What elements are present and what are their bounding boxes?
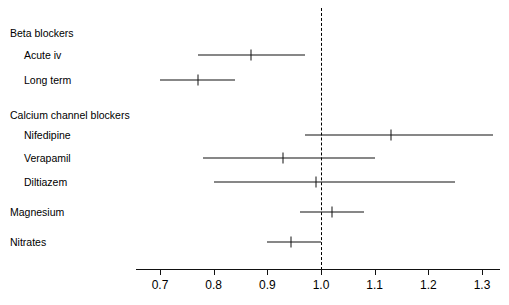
x-axis-tick bbox=[428, 269, 429, 275]
x-axis-tick bbox=[267, 269, 268, 275]
reference-line-no-effect bbox=[321, 8, 322, 270]
row-label: Nifedipine bbox=[24, 130, 71, 141]
x-axis-tick-label: 1.3 bbox=[474, 278, 491, 292]
x-axis-tick bbox=[482, 269, 483, 275]
point-estimate-marker bbox=[283, 153, 284, 164]
point-estimate-marker bbox=[390, 130, 391, 141]
x-axis-tick bbox=[375, 269, 376, 275]
row-label: Diltiazem bbox=[24, 177, 67, 188]
x-axis-tick bbox=[214, 269, 215, 275]
forest-plot-figure: Beta blockersAcute ivLong termCalcium ch… bbox=[0, 0, 509, 305]
x-axis-tick bbox=[160, 269, 161, 275]
x-axis-tick-label: 1.2 bbox=[420, 278, 437, 292]
row-label: Verapamil bbox=[24, 153, 71, 164]
group-header-label: Beta blockers bbox=[10, 28, 74, 39]
x-axis-tick-label: 1.1 bbox=[366, 278, 383, 292]
confidence-interval-line bbox=[214, 182, 456, 183]
point-estimate-marker bbox=[315, 177, 316, 188]
x-axis-line bbox=[136, 269, 500, 270]
x-axis-tick-label: 1.0 bbox=[313, 278, 330, 292]
row-label: Nitrates bbox=[10, 237, 46, 248]
point-estimate-marker bbox=[197, 75, 198, 86]
point-estimate-marker bbox=[331, 207, 332, 218]
x-axis-tick-label: 0.9 bbox=[259, 278, 276, 292]
point-estimate-marker bbox=[251, 50, 252, 61]
row-label: Acute iv bbox=[24, 50, 61, 61]
x-axis-tick bbox=[321, 269, 322, 275]
x-axis-tick-label: 0.8 bbox=[205, 278, 222, 292]
row-label: Magnesium bbox=[10, 207, 64, 218]
group-header-label: Calcium channel blockers bbox=[10, 110, 130, 121]
confidence-interval-line bbox=[203, 158, 375, 159]
confidence-interval-line bbox=[267, 242, 321, 243]
point-estimate-marker bbox=[291, 237, 292, 248]
confidence-interval-line bbox=[305, 135, 493, 136]
row-label: Long term bbox=[24, 75, 71, 86]
x-axis-tick-label: 0.7 bbox=[152, 278, 169, 292]
